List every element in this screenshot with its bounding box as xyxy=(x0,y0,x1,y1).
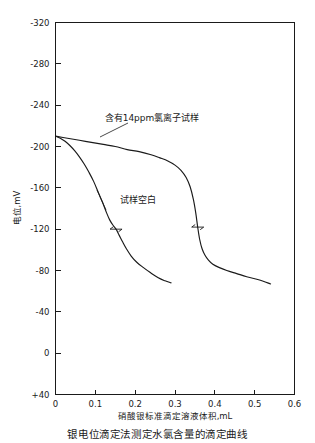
x-axis-tick-labels: 00.10.20.30.40.50.6 xyxy=(53,399,301,409)
y-tick-label: -120 xyxy=(30,224,49,234)
x-tick-label: 0.5 xyxy=(248,399,262,409)
x-tick-label: 0.3 xyxy=(168,399,182,409)
x-tick-label: 0.2 xyxy=(128,399,142,409)
figure-caption: 银电位滴定法测定水氯含量的滴定曲线 xyxy=(0,428,315,441)
x-tick-label: 0.1 xyxy=(89,399,103,409)
figure-container: -320-280-240-200-160-120-80-400+40 00.10… xyxy=(0,0,315,443)
plot-frame xyxy=(56,23,295,395)
x-tick-label: 0.4 xyxy=(208,399,222,409)
y-tick-label: 0 xyxy=(44,348,49,358)
y-tick-label: -160 xyxy=(30,183,49,193)
y-axis-tick-labels: -320-280-240-200-160-120-80-400+40 xyxy=(30,18,49,400)
y-tick-label: -40 xyxy=(36,307,50,317)
y-tick-label: -280 xyxy=(30,59,49,69)
y-tick-label: -240 xyxy=(30,100,49,110)
x-axis-ticks xyxy=(56,390,295,395)
y-tick-label: -200 xyxy=(30,142,49,152)
figure-caption-band: 银电位滴定法测定水氯含量的滴定曲线 xyxy=(0,428,315,443)
x-tick-label: 0 xyxy=(53,399,58,409)
leader-line-blank xyxy=(97,190,106,210)
x-axis-title: 硝酸银标准滴定溶液体积,mL xyxy=(118,411,233,421)
inflection-markers xyxy=(110,225,204,232)
y-tick-label: -80 xyxy=(36,266,50,276)
y-tick-label: -320 xyxy=(30,18,49,28)
leader-line-sample xyxy=(100,123,128,137)
y-tick-label: +40 xyxy=(32,390,50,400)
titration-curve-chart: -320-280-240-200-160-120-80-400+40 00.10… xyxy=(0,0,315,443)
y-axis-title: 电位,mV xyxy=(12,190,22,225)
curve-sample-blank xyxy=(56,136,172,283)
curve-sample-with-chloride xyxy=(56,136,271,284)
x-tick-label: 0.6 xyxy=(288,399,302,409)
series-label-sample-blank: 试样空白 xyxy=(120,194,156,205)
y-axis-ticks xyxy=(56,23,61,395)
series-label-sample-with-chloride: 含有14ppm氯离子试样 xyxy=(105,112,200,123)
